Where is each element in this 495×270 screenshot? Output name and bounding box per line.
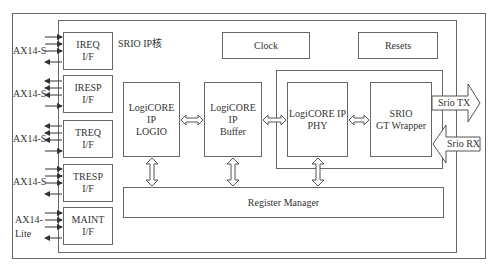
srio-rx-label: Srio RX xyxy=(447,138,481,150)
connection-arrows xyxy=(0,0,495,270)
srio-tx-label: Srio TX xyxy=(438,97,472,109)
